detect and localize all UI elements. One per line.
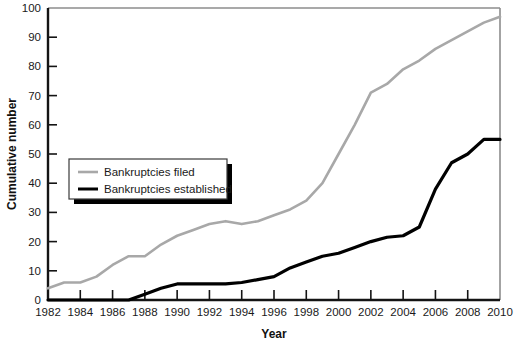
x-tick-label: 1990 xyxy=(164,306,190,318)
legend-label-bankruptcies-established: Bankruptcies established xyxy=(104,183,232,195)
y-axis-title: Cumulative number xyxy=(5,98,19,210)
x-tick-label: 2008 xyxy=(455,306,481,318)
x-tick-label: 1994 xyxy=(229,306,255,318)
y-tick-label: 0 xyxy=(35,294,41,306)
y-tick-label: 100 xyxy=(22,2,41,14)
line-chart: 0102030405060708090100 19821984198619881… xyxy=(0,0,514,343)
x-axis-title: Year xyxy=(261,327,287,341)
y-tick-label: 20 xyxy=(28,236,41,248)
y-tick-label: 70 xyxy=(28,90,41,102)
y-tick-label: 80 xyxy=(28,60,41,72)
chart-legend: Bankruptcies filed Bankruptcies establis… xyxy=(69,159,232,204)
x-tick-label: 2006 xyxy=(423,306,449,318)
legend-label-bankruptcies-filed: Bankruptcies filed xyxy=(104,166,195,178)
y-tick-label: 90 xyxy=(28,31,41,43)
x-tick-label: 2002 xyxy=(358,306,384,318)
x-tick-label: 2010 xyxy=(487,306,513,318)
y-tick-label: 60 xyxy=(28,119,41,131)
x-tick-label: 1996 xyxy=(261,306,287,318)
x-tick-label: 1984 xyxy=(67,306,93,318)
x-tick-label: 1998 xyxy=(293,306,319,318)
x-tick-label: 1982 xyxy=(35,306,61,318)
x-tick-label: 1988 xyxy=(132,306,158,318)
x-tick-label: 2004 xyxy=(390,306,416,318)
y-tick-label: 10 xyxy=(28,265,41,277)
x-tick-label: 2000 xyxy=(326,306,352,318)
y-tick-label: 30 xyxy=(28,206,41,218)
x-tick-label: 1992 xyxy=(197,306,223,318)
y-tick-label: 40 xyxy=(28,177,41,189)
x-tick-label: 1986 xyxy=(100,306,126,318)
y-tick-label: 50 xyxy=(28,148,41,160)
chart-container: 0102030405060708090100 19821984198619881… xyxy=(0,0,514,343)
